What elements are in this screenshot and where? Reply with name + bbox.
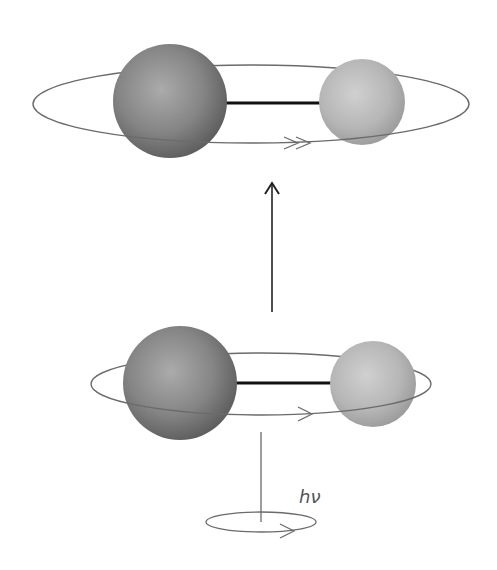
small-atom: [319, 59, 405, 145]
excited-state-molecule: [33, 44, 469, 158]
transition-arrow-icon: [265, 183, 279, 312]
ground-state-molecule: [91, 326, 431, 440]
small-atom: [330, 341, 416, 427]
photon: hν: [206, 432, 320, 538]
rotational-excitation-diagram: hν: [0, 0, 497, 570]
photon-energy-label: hν: [299, 486, 320, 507]
large-atom: [123, 326, 237, 440]
